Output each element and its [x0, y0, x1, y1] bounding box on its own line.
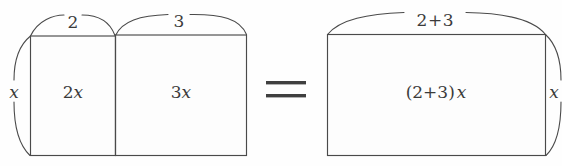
- area-model-figure: 2 3 x 2x 3x 2+3 x (2+3)x: [0, 0, 562, 166]
- brace-height-x-left: [14, 36, 31, 80]
- brace-height-x-right-upper: [546, 35, 562, 81]
- brace-width-2-right: [82, 15, 115, 36]
- brace-width-sum-left: [328, 13, 405, 35]
- brace-width-3: [116, 15, 169, 36]
- brace-width-3-right: [190, 14, 247, 34]
- label-width-2: 2: [68, 14, 79, 31]
- brace-height-x-left-lower: [14, 102, 30, 156]
- label-area-sum-x: (2+3)x: [406, 84, 467, 101]
- brace-height-x-right-lower: [546, 102, 561, 156]
- label-area-2x-coef: 2: [63, 82, 74, 102]
- label-height-x-right: x: [549, 84, 559, 101]
- label-area-3x-var: x: [182, 82, 192, 102]
- diagram-canvas: [0, 0, 562, 166]
- label-area-2x-var: x: [74, 82, 84, 102]
- label-area-3x: 3x: [171, 84, 191, 101]
- label-area-sum-var: x: [455, 82, 467, 102]
- label-area-2x: 2x: [63, 84, 83, 101]
- label-area-sum-group: (2+3): [406, 82, 455, 102]
- label-width-sum: 2+3: [417, 12, 454, 29]
- label-width-3: 3: [174, 13, 185, 30]
- label-height-x: x: [9, 84, 19, 101]
- brace-width-2: [31, 15, 65, 36]
- label-width-sum-left: 2: [417, 10, 428, 30]
- label-width-sum-right: 3: [443, 10, 454, 30]
- plus-icon: +: [427, 10, 442, 30]
- label-area-3x-coef: 3: [171, 82, 182, 102]
- equals-sign: [266, 81, 306, 97]
- brace-width-sum-right: [466, 13, 546, 35]
